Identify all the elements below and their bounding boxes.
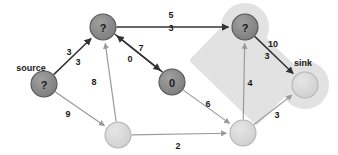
node-circle-bottomright[interactable]: [230, 120, 256, 146]
node-label-topright: ?: [242, 22, 249, 34]
edge-label-bottomright-topright-0: 4: [247, 78, 252, 88]
edge-label-source-top-1: 3: [75, 57, 80, 67]
graph-canvas: ??0? 339537086241033sourcesink: [0, 0, 338, 155]
edge-label-mid-top-0: 0: [127, 54, 132, 64]
edge-label-bottomleft-bottomright-0: 2: [175, 141, 180, 151]
edge-source-top: [54, 38, 91, 74]
node-mid[interactable]: 0: [159, 69, 185, 95]
edge-bottomleft-bottomright: [131, 133, 226, 135]
node-source[interactable]: ?: [31, 71, 57, 97]
node-top[interactable]: ?: [90, 14, 116, 40]
edge-label-topright-sink-1: 3: [264, 51, 269, 61]
edge-bottomleft-top: [105, 43, 116, 121]
edge-label-mid-bottomright-0: 6: [205, 99, 210, 109]
node-label-top: ?: [100, 22, 107, 34]
edge-label-bottomleft-top-0: 8: [91, 77, 96, 87]
node-label-mid: 0: [169, 77, 175, 89]
edge-label-source-top-0: 3: [66, 47, 71, 57]
edge-label-top-topright-1: 3: [168, 23, 173, 33]
flow-network-diagram: ??0? 339537086241033sourcesink: [0, 0, 338, 155]
edge-mid-top: [117, 36, 163, 72]
edge-label-top-topright-0: 5: [168, 10, 173, 20]
edge-source-bottomleft: [55, 92, 104, 126]
node-circle-bottomleft[interactable]: [105, 122, 131, 148]
source-label: source: [16, 63, 46, 73]
node-bottomright[interactable]: [230, 120, 256, 146]
node-bottomleft[interactable]: [105, 122, 131, 148]
node-circle-sink[interactable]: [292, 72, 318, 98]
node-label-source: ?: [41, 79, 48, 91]
edge-label-source-bottomleft-0: 9: [65, 109, 70, 119]
edge-label-top-mid-0: 7: [138, 43, 143, 53]
node-topright[interactable]: ?: [232, 14, 258, 40]
node-sink[interactable]: [292, 72, 318, 98]
sink-label: sink: [294, 58, 313, 68]
edge-label-topright-sink-0: 10: [268, 39, 278, 49]
edge-label-bottomright-sink-0: 3: [274, 110, 279, 120]
